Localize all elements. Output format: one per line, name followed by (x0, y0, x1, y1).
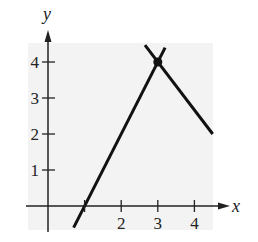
x-tick-label: 3 (154, 214, 163, 233)
intersection-point (153, 58, 162, 67)
x-axis-arrow-icon (218, 203, 230, 210)
chart: 2341234 x y (0, 0, 258, 242)
y-tick-label: 3 (31, 89, 40, 108)
y-tick-label: 2 (31, 125, 40, 144)
y-axis-arrow-icon (45, 30, 52, 42)
y-axis-label: y (41, 4, 51, 24)
x-tick-label: 4 (190, 214, 199, 233)
x-tick-label: 2 (117, 214, 126, 233)
x-axis-label: x (231, 196, 240, 216)
y-tick-label: 4 (31, 53, 40, 72)
y-tick-label: 1 (31, 161, 40, 180)
